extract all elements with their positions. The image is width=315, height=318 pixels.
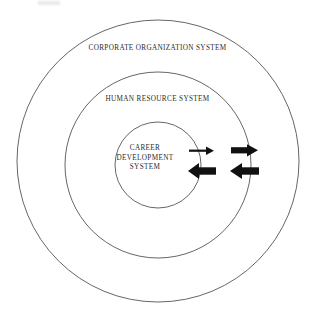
middle-ring-label: HUMAN RESOURCE SYSTEM bbox=[0, 95, 315, 103]
inner-inbound-arrow-left bbox=[188, 163, 216, 179]
inner-ring-label: CAREER DEVELOPMENT SYSTEM bbox=[113, 144, 177, 173]
inner-ring-label-line-2: DEVELOPMENT bbox=[113, 154, 177, 164]
outer-ring-label: CORPORATE ORGANIZATION SYSTEM bbox=[0, 44, 315, 52]
middle-inbound-arrow-left bbox=[230, 163, 259, 179]
concentric-systems-diagram: CORPORATE ORGANIZATION SYSTEM HUMAN RESO… bbox=[0, 0, 315, 318]
inner-ring-label-line-3: SYSTEM bbox=[113, 163, 177, 173]
middle-outbound-arrow-right bbox=[231, 144, 258, 156]
inner-outbound-arrow-right bbox=[189, 147, 214, 155]
inner-ring-label-line-1: CAREER bbox=[113, 144, 177, 154]
